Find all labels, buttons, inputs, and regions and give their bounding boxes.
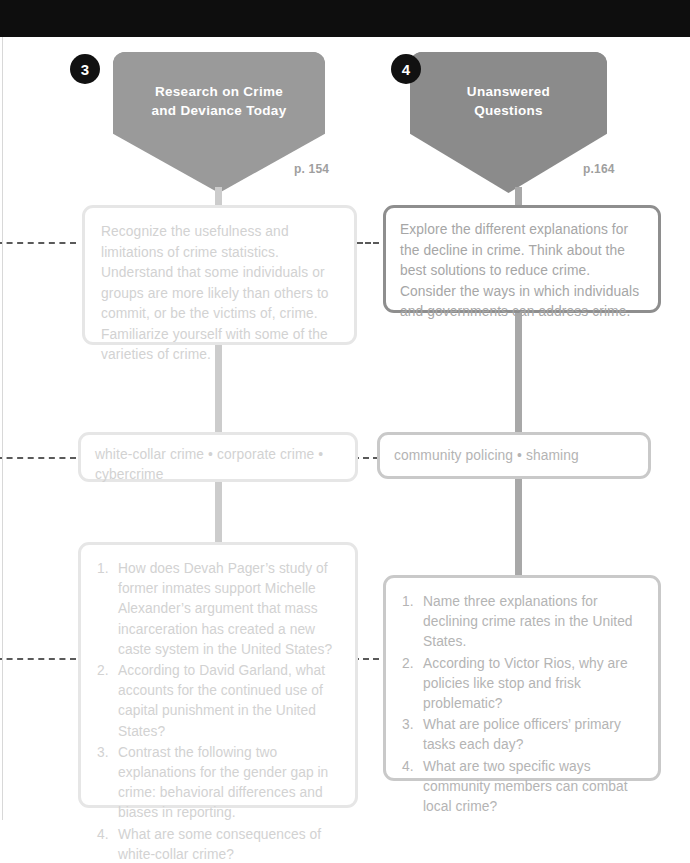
keywords-box-4: community policing • shaming (377, 432, 651, 479)
question-number: 4. (402, 757, 420, 777)
objective-text-3: Recognize the usefulness and limitations… (101, 224, 329, 362)
question-text: According to David Garland, what account… (118, 663, 325, 739)
question-number: 2. (97, 661, 115, 681)
connector-stem-objective-to-keywords-3 (215, 342, 222, 437)
keywords-text-4: community policing • shaming (394, 448, 579, 463)
section-title-line-1: Unanswered (410, 82, 607, 101)
list-item: 3. Contrast the following two explanatio… (97, 743, 341, 824)
list-item: 1. Name three explanations for declining… (402, 592, 644, 653)
keywords-text-3: white-collar crime • corporate crime • c… (95, 447, 323, 482)
section-title-line-2: and Deviance Today (113, 101, 325, 120)
question-list-3: 1. How does Devah Pager’s study of forme… (97, 559, 341, 863)
objective-box-3: Recognize the usefulness and limitations… (82, 205, 357, 345)
question-number: 2. (402, 654, 420, 674)
list-item: 1. How does Devah Pager’s study of forme… (97, 559, 341, 660)
question-text: How does Devah Pager’s study of former i… (118, 561, 332, 657)
dashed-connector-keywords-far-left (0, 457, 76, 459)
question-number: 3. (402, 715, 420, 735)
list-item: 4. What are two specific ways community … (402, 757, 644, 818)
connector-stem-objective-to-keywords-4 (515, 309, 522, 437)
section-title-line-2: Questions (410, 101, 607, 120)
list-item: 2. According to David Garland, what acco… (97, 661, 341, 742)
connector-stem-keywords-to-questions-4 (515, 477, 522, 582)
dashed-connector-objective-far-left (0, 242, 76, 244)
dashed-connector-objective-middle (357, 242, 379, 244)
questions-box-3: 1. How does Devah Pager’s study of forme… (78, 542, 358, 808)
objective-box-4: Explore the different explanations for t… (383, 205, 661, 313)
list-item: 2. According to Victor Rios, why are pol… (402, 654, 644, 715)
connector-stem-keywords-to-questions-3 (215, 479, 222, 549)
question-text: What are some consequences of white-coll… (118, 827, 321, 862)
question-text: What are two specific ways community mem… (423, 759, 628, 814)
list-item: 3. What are police officers’ primary tas… (402, 715, 644, 755)
question-text: Contrast the following two explanations … (118, 745, 328, 821)
question-number: 1. (402, 592, 420, 612)
objective-text-4: Explore the different explanations for t… (400, 222, 639, 319)
learning-objectives-flowchart: 3 Research on Crime and Deviance Today p… (0, 37, 690, 820)
question-text: What are police officers’ primary tasks … (423, 717, 621, 752)
question-text: According to Victor Rios, why are polici… (423, 656, 628, 711)
dashed-connector-questions-far-left (0, 658, 76, 660)
step-number-badge-4: 4 (391, 54, 421, 84)
questions-box-4: 1. Name three explanations for declining… (383, 575, 661, 781)
section-header-shield-4: Unanswered Questions (410, 52, 607, 193)
question-text: Name three explanations for declining cr… (423, 594, 633, 649)
page-reference-4: p.164 (583, 162, 615, 176)
list-item: 4. What are some consequences of white-c… (97, 825, 341, 863)
page-reference-3: p. 154 (294, 162, 329, 176)
question-number: 3. (97, 743, 115, 763)
question-list-4: 1. Name three explanations for declining… (402, 592, 644, 817)
question-number: 1. (97, 559, 115, 579)
step-number-badge-3: 3 (70, 54, 100, 84)
question-number: 4. (97, 825, 115, 845)
top-black-band (0, 0, 690, 37)
keywords-box-3: white-collar crime • corporate crime • c… (78, 432, 358, 482)
section-title-line-1: Research on Crime (113, 82, 325, 101)
